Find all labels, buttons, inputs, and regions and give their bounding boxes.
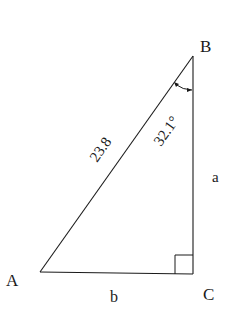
side-label-b: b [110,288,118,305]
triangle-diagram: B A C a b 23.8 32.1° [0,0,233,320]
vertex-label-c: C [203,285,214,304]
side-hypotenuse [40,56,193,272]
side-b [40,272,193,274]
vertex-label-b: B [200,37,211,56]
side-label-a: a [212,169,219,185]
hypotenuse-label: 23.8 [86,134,114,165]
angle-label-b: 32.1° [150,113,182,149]
arc-arrowhead-right [187,88,192,92]
vertex-label-a: A [6,271,19,290]
right-angle-marker [175,255,193,274]
